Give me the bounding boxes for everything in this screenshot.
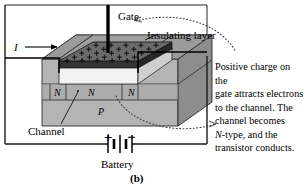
label-battery-negative: − (127, 130, 136, 145)
gate-plate-front-edge (59, 61, 138, 68)
caption-line-5-rest: -type, and the (222, 129, 278, 140)
explanatory-caption: Positive charge on the gate attracts ele… (215, 60, 305, 155)
label-insulating-layer: Insulating layer (147, 30, 216, 41)
caption-line-2: gate attracts electrons (215, 88, 303, 99)
caption-line-5-italic: N (215, 129, 222, 140)
label-n-region-middle: N (88, 88, 95, 98)
insulator-front (59, 67, 138, 84)
caption-line-4: channel becomes (215, 115, 285, 126)
label-gate: Gate (118, 11, 139, 22)
label-battery: Battery (101, 159, 133, 170)
channel-band (42, 84, 178, 100)
label-battery-positive: + (104, 130, 113, 145)
panel-label: (b) (130, 173, 143, 184)
label-current-i: I (14, 42, 18, 53)
caption-line-3: to the channel. The (215, 102, 293, 113)
label-n-region-right: N (128, 88, 135, 98)
label-n-region-left: N (54, 88, 61, 98)
label-channel: Channel (28, 126, 65, 137)
mosfet-figure-panel-b: Gate Insulating layer I N N N P Channel … (0, 0, 306, 195)
caption-line-1: Positive charge on the (215, 61, 290, 86)
caption-line-6: transistor conducts. (215, 142, 294, 153)
label-p-substrate: P (98, 107, 104, 117)
